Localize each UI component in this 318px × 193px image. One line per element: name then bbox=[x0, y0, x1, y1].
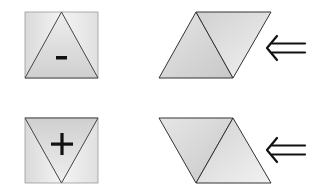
double-left-arrow-icon bbox=[267, 138, 305, 162]
double-left-arrow-icon bbox=[267, 36, 305, 60]
plus-sign-icon bbox=[60, 133, 63, 155]
parallelogram-right bbox=[159, 12, 271, 78]
minus-sign-icon bbox=[56, 56, 67, 60]
parallelogram-left bbox=[159, 118, 271, 183]
square-plus bbox=[25, 118, 98, 183]
diagram-canvas bbox=[0, 0, 318, 193]
square-minus bbox=[25, 12, 98, 78]
